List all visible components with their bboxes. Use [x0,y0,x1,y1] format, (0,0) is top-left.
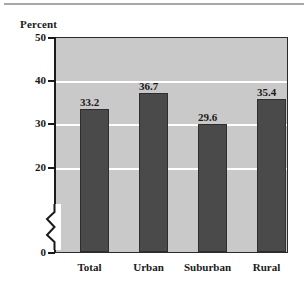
y-tick-50 [48,37,55,39]
y-axis-title: Percent [20,18,57,30]
bar-rural [257,99,286,252]
y-tick-label-30: 30 [16,118,46,129]
y-tick-label-50: 50 [16,32,46,43]
bar-urban [139,93,168,252]
top-divider-rule [4,3,304,5]
y-tick-40 [48,80,55,82]
value-label-urban: 36.7 [114,81,183,92]
x-category-label-rural: Rural [232,261,301,273]
value-label-suburban: 29.6 [173,112,242,123]
y-tick-label-20: 20 [16,162,46,173]
y-tick-30 [48,123,55,125]
bar-total [80,109,109,252]
plot-area [55,37,288,253]
y-tick-label-40: 40 [16,75,46,86]
y-tick-20 [48,167,55,169]
bar-suburban [198,124,227,252]
y-axis-break-icon [43,204,61,250]
y-tick-label-0: 0 [16,247,46,258]
value-label-total: 33.2 [55,97,124,108]
value-label-rural: 35.4 [232,87,301,98]
y-tick-0 [48,252,55,254]
